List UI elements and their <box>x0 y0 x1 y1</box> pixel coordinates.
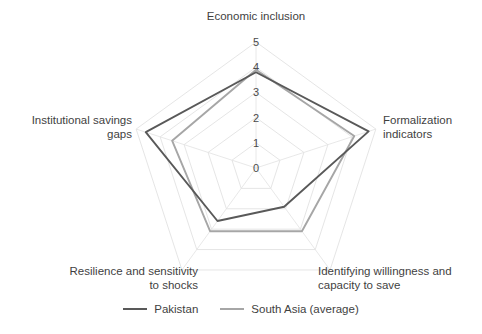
axis-label-identifying-willingness-capacity-to-save: Identifying willingness and capacity to … <box>318 264 482 292</box>
axis-spoke-3 <box>182 168 256 270</box>
legend-line-swatch-pakistan <box>123 308 147 310</box>
radar-chart: 012345 Economic inclusion Formalization … <box>0 0 482 334</box>
legend-line-swatch-south-asia-average <box>220 308 244 310</box>
legend-item-south-asia-average: South Asia (average) <box>220 303 358 315</box>
axis-spoke-1 <box>256 129 376 168</box>
radial-tick-5: 5 <box>253 36 259 48</box>
axis-label-institutional-savings-gaps: Institutional savings gaps <box>8 113 132 141</box>
radial-tick-3: 3 <box>253 86 259 98</box>
axis-spoke-2 <box>256 168 330 270</box>
legend-label-south-asia-average: South Asia (average) <box>251 303 358 315</box>
radial-tick-1: 1 <box>253 137 259 149</box>
chart-legend: Pakistan South Asia (average) <box>0 303 482 315</box>
radial-tick-0: 0 <box>253 162 259 174</box>
legend-item-pakistan: Pakistan <box>123 303 198 315</box>
axis-label-economic-inclusion: Economic inclusion <box>186 9 326 23</box>
axis-spoke-4 <box>136 129 256 168</box>
axis-label-formalization-indicators: Formalization indicators <box>383 113 482 141</box>
axis-label-resilience-sensitivity-to-shocks: Resilience and sensitivity to shocks <box>52 264 198 292</box>
legend-label-pakistan: Pakistan <box>154 303 198 315</box>
radial-tick-2: 2 <box>253 112 259 124</box>
